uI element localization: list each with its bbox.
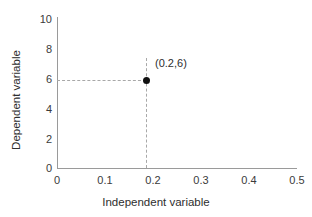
data-point-label: (0.2,6) xyxy=(155,57,187,69)
horizontal-guide-line xyxy=(57,80,146,81)
x-tick-label-0-1: 0.1 xyxy=(85,175,125,186)
x-tick-label-0: 0 xyxy=(37,175,77,186)
x-axis-line xyxy=(57,168,297,169)
x-axis-title: Independent variable xyxy=(0,196,312,208)
y-tick-label-0: 0 xyxy=(28,163,52,174)
data-point-marker xyxy=(143,77,150,84)
y-tick-label-6: 6 xyxy=(28,74,52,85)
x-tick-label-0-5: 0.5 xyxy=(277,175,312,186)
y-tick-label-10: 10 xyxy=(28,14,52,25)
scatter-chart: 10 8 6 4 2 0 0 0.1 0.2 0.3 0.4 0.5 (0.2,… xyxy=(0,0,312,217)
x-tick-label-0-3: 0.3 xyxy=(181,175,221,186)
x-tick-label-0-4: 0.4 xyxy=(229,175,269,186)
y-axis-title: Dependent variable xyxy=(10,24,22,176)
y-tick-label-2: 2 xyxy=(28,134,52,145)
y-tick-label-4: 4 xyxy=(28,104,52,115)
y-tick-label-8: 8 xyxy=(28,44,52,55)
y-axis-line xyxy=(57,17,58,169)
x-tick-label-0-2: 0.2 xyxy=(133,175,173,186)
vertical-guide-line xyxy=(146,58,147,168)
